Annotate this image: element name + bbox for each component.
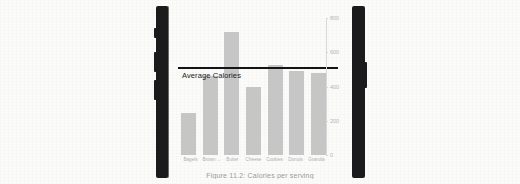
- average-calories-label: Average Calories: [182, 71, 241, 80]
- x-tick-label: Cookies: [265, 157, 284, 163]
- bar-donuts: [289, 71, 304, 155]
- y-tick-mark: [326, 155, 328, 156]
- y-tick-mark: [326, 52, 328, 53]
- y-tick-mark: [326, 121, 328, 122]
- phone-left-edge: [156, 6, 169, 178]
- silent-switch-icon[interactable]: [154, 28, 157, 38]
- figure-caption: Figure 11.2: Calories per serving: [0, 172, 520, 179]
- y-tick-label: 400: [330, 84, 339, 90]
- y-tick-mark: [326, 87, 328, 88]
- bar-brown: [203, 76, 218, 155]
- x-tick-label: Donuts: [286, 157, 305, 163]
- bar-chart: Average Calories 0200400600800 BagelsBro…: [169, 0, 352, 184]
- bar-bagels: [181, 113, 196, 155]
- x-tick-label: Granola: [307, 157, 326, 163]
- phone-right-edge: [352, 6, 365, 178]
- bar-butter: [224, 32, 239, 155]
- bar-series: [181, 18, 326, 155]
- average-calories-line: [178, 67, 338, 69]
- bar-cheese: [246, 87, 261, 155]
- x-tick-label: Brown ...: [202, 157, 221, 163]
- bar-cookies: [268, 65, 283, 155]
- x-tick-label: Bagels: [181, 157, 200, 163]
- plot-area: Average Calories: [181, 18, 326, 155]
- x-tick-label: Cheese: [244, 157, 263, 163]
- y-tick-label: 800: [330, 15, 339, 21]
- y-tick-mark: [326, 18, 328, 19]
- screenshot-page: Average Calories 0200400600800 BagelsBro…: [0, 0, 520, 184]
- y-tick-label: 0: [330, 152, 333, 158]
- volume-up-button[interactable]: [154, 52, 157, 72]
- x-axis-labels: BagelsBrown ...ButterCheeseCookiesDonuts…: [181, 157, 326, 163]
- y-tick-label: 200: [330, 118, 339, 124]
- y-tick-label: 600: [330, 49, 339, 55]
- x-tick-label: Butter: [223, 157, 242, 163]
- volume-down-button[interactable]: [154, 80, 157, 100]
- power-button[interactable]: [364, 62, 367, 88]
- bar-granola: [311, 73, 326, 155]
